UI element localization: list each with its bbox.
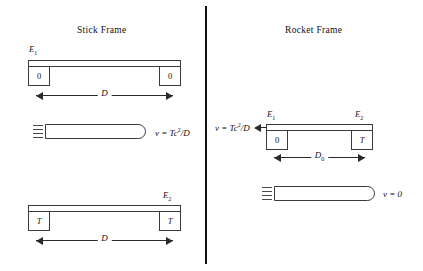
velocity-label-rocket-right: v = 0 bbox=[383, 189, 402, 199]
dimension-letter: D bbox=[101, 88, 108, 98]
panel-title-stick-frame: Stick Frame bbox=[77, 25, 126, 35]
dimension-d-bottom: D bbox=[36, 235, 173, 247]
event-subscript: 2 bbox=[360, 115, 363, 121]
clock-value-right: T bbox=[360, 135, 365, 145]
clock-value-right: 0 bbox=[168, 71, 172, 81]
velocity-suffix: /D bbox=[241, 123, 250, 133]
dimension-arrow-right bbox=[358, 154, 365, 162]
clock-box-left: T bbox=[28, 211, 50, 231]
dimension-arrow-right bbox=[166, 237, 173, 245]
rocket-body bbox=[45, 124, 146, 139]
event-subscript: 2 bbox=[168, 196, 171, 202]
stick-assembly-right-panel: 0 T bbox=[266, 124, 373, 150]
clock-value-left: 0 bbox=[37, 71, 41, 81]
velocity-prefix: v = Tc bbox=[155, 128, 178, 138]
dimension-arrow-left bbox=[274, 154, 281, 162]
velocity-suffix: /D bbox=[181, 128, 190, 138]
event-subscript: 1 bbox=[34, 50, 37, 56]
dimension-label: D bbox=[97, 233, 112, 243]
panel-title-rocket-frame: Rocket Frame bbox=[285, 25, 342, 35]
dimension-arrow-left bbox=[36, 92, 43, 100]
dimension-d0: D0 bbox=[274, 152, 365, 164]
event-label-e2-right: E2 bbox=[355, 109, 363, 121]
dimension-subscript: 0 bbox=[321, 156, 324, 162]
clock-value-left: T bbox=[37, 216, 42, 226]
event-label-e1: E1 bbox=[29, 44, 37, 56]
rocket-at-rest-right-panel bbox=[262, 186, 377, 202]
event-label-e1-right: E1 bbox=[267, 109, 275, 121]
velocity-prefix: v = Tc bbox=[215, 123, 238, 133]
clock-box-right: T bbox=[159, 211, 181, 231]
stick-assembly-top-left: 0 0 bbox=[28, 60, 181, 86]
clock-box-right: 0 bbox=[159, 66, 181, 86]
event-label-e2: E2 bbox=[163, 190, 171, 202]
clock-box-right: T bbox=[351, 130, 373, 150]
panel-divider bbox=[205, 6, 207, 264]
dimension-arrow-left bbox=[36, 237, 43, 245]
dimension-d-top: D bbox=[36, 90, 173, 102]
clock-value-right: T bbox=[168, 216, 173, 226]
dimension-arrow-right bbox=[166, 92, 173, 100]
velocity-label-rocket-left: v = Tc2/D bbox=[155, 127, 190, 138]
clock-box-left: 0 bbox=[28, 66, 50, 86]
event-subscript: 1 bbox=[272, 115, 275, 121]
velocity-arrow-left bbox=[254, 123, 267, 132]
arrow-line bbox=[260, 127, 267, 128]
motion-lines-icon bbox=[262, 187, 272, 200]
dimension-label: D bbox=[97, 88, 112, 98]
rocket-moving-left-panel bbox=[33, 124, 148, 140]
clock-value-left: 0 bbox=[275, 135, 279, 145]
relativity-figure: Stick Frame 0 0 E1 D v = Tc2/D T T E2 D bbox=[0, 0, 423, 271]
dimension-label: D0 bbox=[311, 150, 329, 162]
motion-lines-icon bbox=[33, 125, 43, 138]
rocket-body bbox=[274, 186, 375, 201]
clock-box-left: 0 bbox=[266, 130, 288, 150]
stick-assembly-bottom-left: T T bbox=[28, 205, 181, 231]
velocity-label-stick-right: v = Tc2/D bbox=[215, 122, 250, 133]
dimension-letter: D bbox=[101, 233, 108, 243]
